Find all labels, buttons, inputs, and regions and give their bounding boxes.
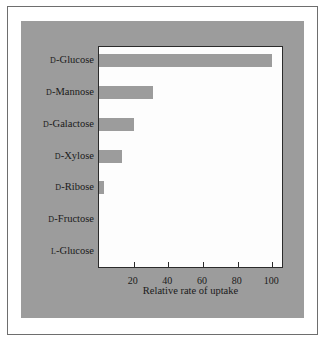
category-label: D-Mannose — [0, 85, 98, 99]
x-tick — [134, 262, 135, 267]
category-label: D-Fructose — [0, 212, 98, 226]
bar — [99, 86, 153, 99]
bars-container — [99, 47, 282, 267]
sugar-name: -Galactose — [49, 118, 94, 129]
x-tick — [168, 262, 169, 267]
x-tick — [272, 262, 273, 267]
x-tick — [238, 262, 239, 267]
category-label: D-Xylose — [0, 149, 98, 163]
sugar-name: -Fructose — [54, 213, 94, 224]
category-label: D-Galactose — [0, 117, 98, 131]
category-label: D-Glucose — [0, 53, 98, 67]
bar — [99, 54, 272, 67]
plot-area — [98, 46, 283, 268]
sugar-name: -Glucose — [56, 54, 94, 65]
x-tick — [203, 262, 204, 267]
bar — [99, 150, 122, 163]
sugar-name: -Xylose — [61, 150, 94, 161]
category-label: D-Ribose — [0, 180, 98, 194]
sugar-name: -Glucose — [56, 245, 94, 256]
figure-root: D-GlucoseD-MannoseD-GalactoseD-XyloseD-R… — [0, 0, 325, 342]
category-axis-labels: D-GlucoseD-MannoseD-GalactoseD-XyloseD-R… — [0, 46, 98, 268]
x-axis-title: Relative rate of uptake — [98, 285, 283, 296]
sugar-name: -Mannose — [52, 86, 94, 97]
category-label: L-Glucose — [0, 244, 98, 258]
bar — [99, 181, 104, 194]
bar — [99, 118, 134, 131]
sugar-name: -Ribose — [61, 181, 94, 192]
x-axis-tick-marks — [99, 261, 282, 267]
